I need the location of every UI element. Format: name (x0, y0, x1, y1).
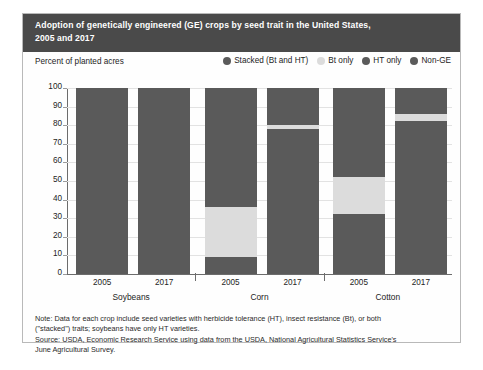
bar-segment (267, 125, 319, 129)
y-tick-label: 60 (41, 156, 62, 165)
bar-segment (333, 177, 385, 214)
y-tick-mark (63, 218, 67, 219)
note-line: ("stacked") traits; soybeans have only H… (35, 324, 450, 334)
y-tick-mark (63, 200, 67, 201)
y-tick-mark (63, 107, 67, 108)
plot-area: 0102030405060708090100 (67, 88, 452, 274)
y-tick-label: 40 (41, 194, 62, 203)
bar-segment (395, 121, 447, 274)
chart-title-line-1: Adoption of genetically engineered (GE) … (35, 19, 448, 32)
y-tick-mark (63, 255, 67, 256)
bar-segment (333, 214, 385, 274)
bar-soybeans-2017[interactable] (138, 88, 190, 274)
bar-cotton-2017[interactable] (395, 88, 447, 274)
legend-item-ht-only[interactable]: HT only (362, 56, 401, 65)
y-tick-label: 50 (41, 175, 62, 184)
y-tick-label: 90 (41, 101, 62, 110)
gridline (67, 274, 452, 275)
y-tick-mark (63, 125, 67, 126)
bar-segment (76, 88, 128, 112)
bar-cotton-2005[interactable] (333, 88, 385, 274)
y-tick-mark (63, 144, 67, 145)
x-axis-group-label-cotton: Cotton (324, 292, 452, 302)
legend-label: Bt only (328, 56, 353, 65)
chart-title-line-2: 2005 and 2017 (35, 32, 448, 45)
figure-panel: Adoption of genetically engineered (GE) … (22, 13, 461, 343)
legend-swatch-icon (410, 57, 418, 65)
y-tick-label: 100 (41, 82, 62, 91)
y-tick-label: 70 (41, 138, 62, 147)
x-axis-year-label: 2017 (138, 278, 190, 287)
bar-corn-2017[interactable] (267, 88, 319, 274)
bar-segment (267, 129, 319, 274)
chart-legend: Stacked (Bt and HT)Bt onlyHT onlyNon-GE (223, 56, 451, 65)
legend-swatch-icon (223, 57, 231, 65)
y-tick-label: 0 (41, 268, 62, 277)
bar-segment (138, 99, 190, 274)
legend-item-bt-only[interactable]: Bt only (317, 56, 353, 65)
y-tick-label: 30 (41, 212, 62, 221)
legend-row: Percent of planted acres Stacked (Bt and… (23, 54, 460, 74)
x-axis-year-label: 2017 (267, 278, 319, 287)
legend-label: Non-GE (421, 56, 451, 65)
y-tick-mark (63, 274, 67, 275)
legend-label: HT only (373, 56, 401, 65)
x-axis-year-label: 2017 (395, 278, 447, 287)
y-tick-mark (63, 181, 67, 182)
x-axis-year-label: 2005 (76, 278, 128, 287)
bar-segment (205, 257, 257, 274)
x-axis-group-label-corn: Corn (195, 292, 323, 302)
y-tick-label: 20 (41, 231, 62, 240)
legend-item-non-ge[interactable]: Non-GE (410, 56, 451, 65)
x-axis-year-label: 2005 (333, 278, 385, 287)
y-tick-mark (63, 237, 67, 238)
bar-segment (205, 207, 257, 257)
bar-segment (267, 88, 319, 125)
bar-corn-2005[interactable] (205, 88, 257, 274)
y-tick-label: 80 (41, 119, 62, 128)
x-axis-year-labels: 200520172005201720052017 (67, 278, 452, 290)
legend-label: Stacked (Bt and HT) (234, 56, 308, 65)
bar-segment (395, 88, 447, 114)
note-line: Source: USDA, Economic Research Service … (35, 335, 450, 345)
x-axis-group-label-soybeans: Soybeans (67, 292, 195, 302)
y-axis-title: Percent of planted acres (35, 57, 124, 66)
bar-segment (333, 88, 385, 177)
x-axis-year-label: 2005 (205, 278, 257, 287)
x-axis-group-labels: SoybeansCornCotton (67, 292, 452, 306)
legend-item-stacked-bt-and-ht[interactable]: Stacked (Bt and HT) (223, 56, 308, 65)
note-line: Note: Data for each crop include seed va… (35, 314, 450, 324)
y-tick-mark (63, 88, 67, 89)
legend-swatch-icon (317, 57, 325, 65)
bar-segment (395, 114, 447, 121)
chart-notes: Note: Data for each crop include seed va… (35, 314, 450, 356)
legend-swatch-icon (362, 57, 370, 65)
bar-segment (138, 88, 190, 99)
note-line: June Agricultural Survey. (35, 345, 450, 355)
bar-segment (205, 88, 257, 207)
y-tick-label: 10 (41, 249, 62, 258)
bar-segment (76, 112, 128, 274)
y-tick-mark (63, 162, 67, 163)
chart-title-bar: Adoption of genetically engineered (GE) … (23, 14, 460, 52)
bar-soybeans-2005[interactable] (76, 88, 128, 274)
